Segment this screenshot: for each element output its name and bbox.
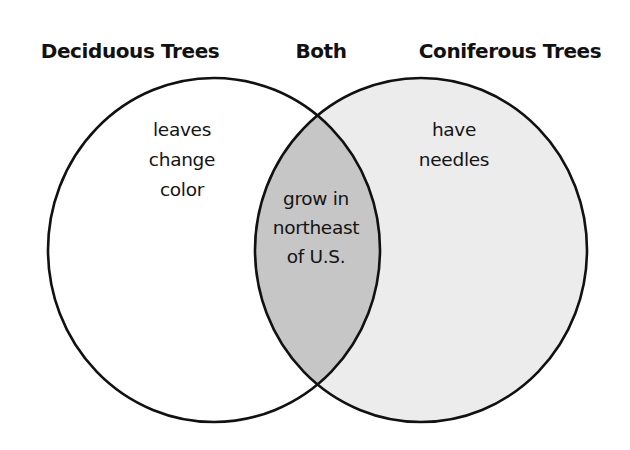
heading-deciduous-trees: Deciduous Trees	[41, 39, 220, 63]
overlap-line-2: northeast	[273, 217, 360, 238]
overlap-line-3: of U.S.	[287, 246, 346, 267]
overlap-line-1: grow in	[283, 188, 349, 209]
venn-diagram: Deciduous Trees Both Coniferous Trees le…	[0, 0, 630, 450]
deciduous-line-2: change	[149, 149, 215, 170]
deciduous-line-1: leaves	[153, 119, 211, 140]
heading-coniferous-trees: Coniferous Trees	[419, 39, 601, 63]
deciduous-text: leaves change color	[149, 119, 215, 200]
coniferous-line-2: needles	[419, 149, 489, 170]
heading-both: Both	[295, 39, 346, 63]
coniferous-line-1: have	[432, 119, 476, 140]
deciduous-line-3: color	[160, 179, 205, 200]
